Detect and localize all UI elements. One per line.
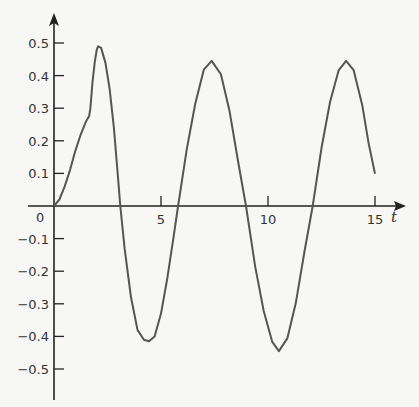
y-tick-label: 0.3 [28, 101, 49, 116]
y-tick-label: −0.1 [17, 232, 49, 247]
origin-label: 0 [36, 210, 44, 225]
y-tick-label: −0.3 [17, 297, 49, 312]
line-chart: 0.50.40.30.20.1−0.1−0.2−0.3−0.4−0.5 5101… [0, 0, 419, 407]
x-tick-label: 15 [367, 212, 384, 227]
y-tick-label: −0.5 [17, 362, 49, 377]
x-tick-label: 5 [157, 212, 165, 227]
x-tick-label: 10 [260, 212, 277, 227]
data-series-line [54, 46, 375, 351]
x-axis-ticks: 51015 [157, 196, 383, 227]
y-tick-label: 0.1 [28, 166, 49, 181]
y-tick-label: −0.4 [17, 329, 49, 344]
y-tick-label: 0.4 [28, 69, 49, 84]
y-tick-label: 0.2 [28, 134, 49, 149]
y-tick-label: −0.2 [17, 264, 49, 279]
x-axis-label: t [391, 208, 398, 226]
y-tick-label: 0.5 [28, 36, 49, 51]
